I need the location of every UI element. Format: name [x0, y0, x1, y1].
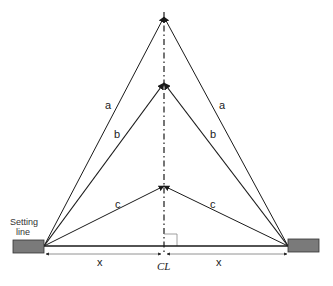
label-c-left: c: [115, 198, 121, 210]
dimension-label-left: x: [97, 256, 103, 268]
line-b-left: [44, 83, 164, 246]
right-angle-mark: [164, 234, 177, 246]
label-a-right: a: [219, 99, 226, 111]
setting-line-label-2: line: [16, 227, 30, 237]
setting-box-left: [13, 240, 44, 253]
line-c-right: [164, 186, 288, 246]
dimension-label-right: x: [216, 256, 222, 268]
label-b-left: b: [114, 128, 120, 140]
label-c-right: c: [210, 198, 216, 210]
line-b-right: [164, 83, 288, 246]
label-b-right: b: [210, 128, 216, 140]
label-a-left: a: [105, 99, 112, 111]
line-c-left: [44, 186, 164, 246]
setting-out-diagram: Setting line a a b b c c x x CL: [0, 0, 333, 286]
centerline-label: CL: [157, 260, 170, 272]
setting-box-right: [288, 239, 319, 252]
line-a-right: [164, 17, 288, 246]
line-a-left: [44, 17, 164, 246]
setting-line-label-1: Setting: [10, 217, 38, 227]
